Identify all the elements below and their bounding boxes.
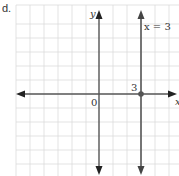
- arrow-down-icon: [138, 166, 145, 175]
- coordinate-graph: y x 0 3 x = 3: [0, 0, 179, 176]
- arrow-left-icon: [16, 91, 25, 98]
- arrow-up-icon: [138, 10, 145, 19]
- x-axis-label: x: [175, 96, 179, 107]
- line-equation-label: x = 3: [144, 21, 171, 32]
- y-axis-label: y: [89, 8, 96, 19]
- arrow-down-icon: [96, 166, 103, 175]
- point-label: 3: [131, 82, 137, 93]
- arrow-up-icon: [96, 10, 103, 19]
- intercept-point: [138, 91, 144, 97]
- origin-label: 0: [91, 97, 97, 108]
